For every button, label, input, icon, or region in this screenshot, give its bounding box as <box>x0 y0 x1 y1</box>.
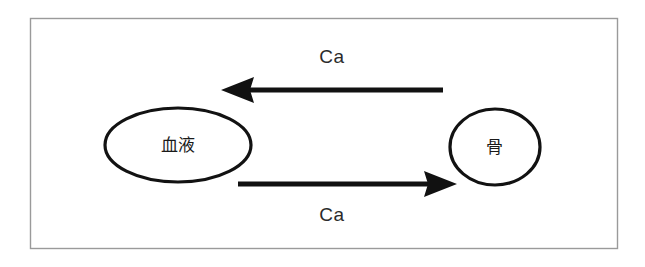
node-bone-label: 骨 <box>486 137 504 157</box>
flow-label-blood-to-bone: Ca <box>319 204 344 225</box>
node-bone: 骨 <box>450 109 540 185</box>
calcium-exchange-diagram: Ca Ca 血液 骨 <box>0 0 645 267</box>
flow-label-bone-to-blood: Ca <box>319 46 344 67</box>
node-blood-label: 血液 <box>161 135 196 155</box>
node-blood: 血液 <box>105 108 251 182</box>
diagram-container: Ca Ca 血液 骨 <box>0 0 645 267</box>
